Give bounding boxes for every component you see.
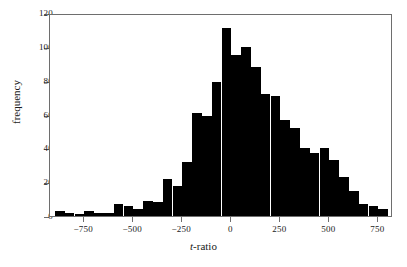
histogram-bar xyxy=(349,191,359,216)
x-axis-tick-label: 0 xyxy=(210,224,250,234)
x-axis-title: t-ratio xyxy=(0,240,407,252)
x-axis-tick-label: −500 xyxy=(112,224,152,234)
x-axis-tick-label: −250 xyxy=(161,224,201,234)
histogram-bar xyxy=(75,214,85,216)
histogram-bar xyxy=(202,116,212,216)
histogram-bar xyxy=(182,162,192,216)
histogram-bar xyxy=(55,211,65,216)
histogram-figure: frequency 020406080100120 −750−500−25002… xyxy=(0,0,407,267)
histogram-bar xyxy=(163,179,173,216)
histogram-bar xyxy=(300,148,310,216)
x-axis-tick-mark xyxy=(279,217,280,222)
histogram-bar xyxy=(143,201,153,216)
histogram-bar xyxy=(378,209,388,216)
histogram-bar xyxy=(290,128,300,216)
y-axis-title: frequency xyxy=(10,42,22,162)
plot-area xyxy=(49,14,392,217)
histogram-bar xyxy=(104,213,114,216)
histogram-bar xyxy=(329,160,339,216)
x-axis-tick-mark xyxy=(230,217,231,222)
x-axis-tick-mark xyxy=(377,217,378,222)
histogram-bar xyxy=(241,47,251,216)
histogram-bar xyxy=(369,206,379,216)
histogram-bar xyxy=(153,202,163,216)
histogram-bar xyxy=(84,211,94,216)
x-axis-tick-mark xyxy=(328,217,329,222)
x-axis-title-rest: -ratio xyxy=(193,240,217,252)
x-axis-tick-label: 750 xyxy=(357,224,397,234)
histogram-bar xyxy=(222,28,232,216)
x-axis-tick-label: −750 xyxy=(63,224,103,234)
x-axis-tick-mark xyxy=(132,217,133,222)
histogram-bar xyxy=(192,113,202,216)
histogram-bar xyxy=(94,213,104,216)
histogram-bar xyxy=(124,206,134,216)
x-axis-tick-mark xyxy=(83,217,84,222)
histogram-bar xyxy=(65,213,75,216)
histogram-bar xyxy=(133,209,143,216)
histogram-bar xyxy=(339,177,349,216)
histogram-bar xyxy=(261,94,271,216)
histogram-bar xyxy=(280,120,290,216)
histogram-bar xyxy=(359,204,369,216)
histogram-bar xyxy=(231,55,241,216)
histogram-bar xyxy=(271,96,281,216)
x-axis-tick-label: 250 xyxy=(259,224,299,234)
histogram-bar xyxy=(212,82,222,216)
histogram-bar xyxy=(114,204,124,216)
histogram-bar xyxy=(320,148,330,216)
x-axis-tick-mark xyxy=(181,217,182,222)
histogram-bar xyxy=(173,186,183,216)
histogram-bar xyxy=(310,153,320,216)
histogram-bar xyxy=(251,67,261,216)
x-axis-tick-label: 500 xyxy=(308,224,348,234)
bars-layer xyxy=(50,15,391,216)
